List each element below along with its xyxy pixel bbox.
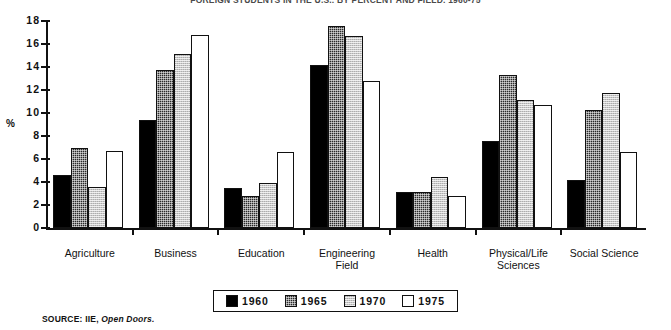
y-axis: % 024681012141618 (0, 0, 40, 330)
legend-label-1965: 1965 (301, 295, 328, 307)
y-axis-tick-label: 12 (6, 83, 40, 95)
bar-engineering-field-1970 (345, 36, 363, 228)
y-axis-tick-label: 6 (6, 152, 40, 164)
bar-education-1965 (242, 196, 260, 228)
bar-agriculture-1970 (88, 187, 106, 228)
legend-swatch-1960 (226, 295, 238, 307)
bar-business-1970 (174, 54, 192, 228)
y-axis-tick-label: 10 (6, 106, 40, 118)
bar-health-1965 (413, 192, 431, 228)
source-note-publication: Open Doors. (101, 314, 154, 324)
legend-label-1960: 1960 (242, 295, 269, 307)
bar-social-science-1965 (585, 110, 603, 228)
legend-swatch-1965 (285, 295, 297, 307)
bar-social-science-1975 (620, 152, 638, 228)
bar-engineering-field-1965 (328, 26, 346, 228)
bar-physical-life-sciences-1965 (499, 75, 517, 228)
x-axis-tick (560, 228, 562, 235)
x-axis-tick (389, 228, 391, 235)
source-note: SOURCE: IIE, Open Doors. (42, 314, 155, 324)
bar-health-1960 (396, 192, 414, 228)
source-note-text: SOURCE: IIE, (42, 314, 101, 324)
x-axis-tick (475, 228, 477, 235)
bar-agriculture-1975 (106, 151, 124, 228)
bar-engineering-field-1960 (310, 65, 328, 228)
chart-title: FOREIGN STUDENTS IN THE U.S., BY PERCENT… (0, 0, 671, 3)
bar-education-1975 (277, 152, 295, 228)
x-axis-tick (217, 228, 219, 235)
bar-group (396, 21, 466, 228)
chart-legend: 1960196519701975 (213, 290, 458, 312)
bar-agriculture-1965 (71, 148, 89, 229)
x-axis-tick (303, 228, 305, 235)
bar-business-1960 (139, 120, 157, 228)
bar-physical-life-sciences-1970 (517, 100, 535, 228)
bar-social-science-1970 (602, 93, 620, 228)
plot-area (47, 21, 647, 228)
legend-item-1960: 1960 (226, 295, 269, 307)
bar-business-1965 (156, 70, 174, 228)
bar-physical-life-sciences-1960 (482, 141, 500, 228)
bar-physical-life-sciences-1975 (534, 105, 552, 228)
legend-item-1970: 1970 (344, 295, 387, 307)
bar-education-1960 (224, 188, 242, 228)
legend-label-1975: 1975 (418, 295, 445, 307)
bar-group (567, 21, 637, 228)
y-axis-tick-label: 16 (6, 37, 40, 49)
y-axis-tick-label: 0 (6, 221, 40, 233)
bar-business-1975 (191, 35, 209, 228)
y-axis-tick-label: 4 (6, 175, 40, 187)
bar-group (482, 21, 552, 228)
bar-group (139, 21, 209, 228)
x-axis-line (46, 228, 646, 230)
legend-swatch-1970 (344, 295, 356, 307)
chart-container: FOREIGN STUDENTS IN THE U.S., BY PERCENT… (0, 0, 671, 330)
bar-agriculture-1960 (53, 175, 71, 228)
y-axis-label: % (6, 118, 15, 129)
bar-group (310, 21, 380, 228)
legend-label-1970: 1970 (360, 295, 387, 307)
y-axis-tick-label: 14 (6, 60, 40, 72)
bar-group (53, 21, 123, 228)
legend-item-1965: 1965 (285, 295, 328, 307)
y-axis-tick-label: 2 (6, 198, 40, 210)
category-label-social-science: Social Science (553, 247, 655, 259)
legend-item-1975: 1975 (402, 295, 445, 307)
x-axis-tick (132, 228, 134, 235)
bar-education-1970 (259, 183, 277, 228)
bar-social-science-1960 (567, 180, 585, 228)
bar-health-1975 (448, 196, 466, 228)
bar-group (224, 21, 294, 228)
bar-engineering-field-1975 (363, 81, 381, 228)
y-axis-tick-label: 8 (6, 129, 40, 141)
bar-health-1970 (431, 177, 449, 228)
y-axis-tick-label: 18 (6, 14, 40, 26)
legend-swatch-1975 (402, 295, 414, 307)
